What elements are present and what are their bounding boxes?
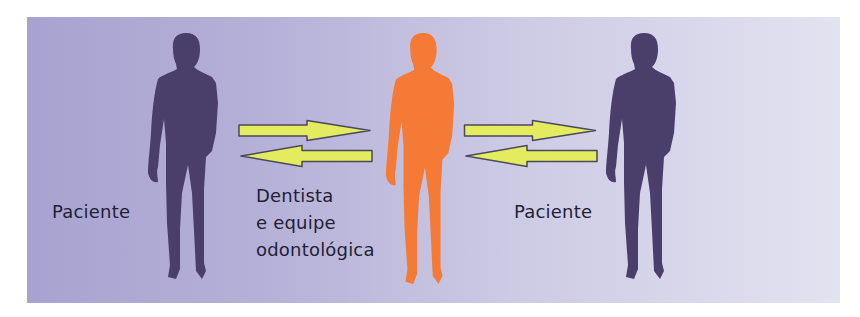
dentist-label-line-1: Dentista xyxy=(256,182,375,209)
arrow-left-icon xyxy=(238,144,374,168)
arrow-left-icon xyxy=(463,144,599,168)
dentist-silhouette-icon xyxy=(384,33,460,290)
dentist-team-label: Dentista e equipe odontológica xyxy=(256,182,375,263)
patient-right-silhouette-icon xyxy=(604,33,682,285)
arrow-right-icon xyxy=(462,119,599,142)
patient-left-label: Paciente xyxy=(52,198,130,225)
patient-left-silhouette-icon xyxy=(146,33,224,285)
dentist-label-line-3: odontológica xyxy=(256,236,375,263)
dentist-label-line-2: e equipe xyxy=(256,209,375,236)
arrow-right-icon xyxy=(237,119,373,142)
patient-right-label: Paciente xyxy=(514,198,592,225)
